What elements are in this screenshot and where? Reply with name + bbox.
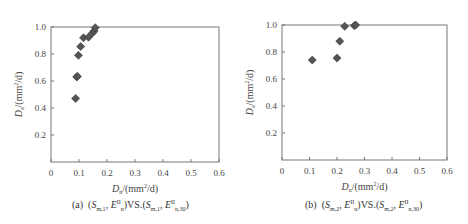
y-axis-label: Da/(mm2/d) [244, 70, 256, 117]
diamond-marker [72, 95, 80, 103]
diamond-marker [77, 43, 85, 51]
axes: 00.10.20.30.40.50.60.20.40.60.81.0Dn/(mm… [244, 20, 453, 193]
y-tick-label: 0.8 [266, 47, 278, 57]
x-tick-label: 0.2 [331, 166, 342, 176]
diamond-marker [333, 54, 341, 62]
panel-b: 00.10.20.30.40.50.60.20.40.60.81.0Dn/(mm… [234, 0, 468, 224]
x-tick-label: 0.1 [304, 166, 315, 176]
x-tick-label: 0.3 [359, 166, 371, 176]
scatter-plot-a: 00.10.20.30.40.50.60.20.40.60.81.0Dn/(mm… [0, 0, 234, 200]
scatter-plot-b: 00.10.20.30.40.50.60.20.40.60.81.0Dn/(mm… [234, 0, 468, 200]
x-tick-label: 0.5 [185, 168, 197, 178]
x-tick-label: 0.4 [157, 168, 169, 178]
y-tick-label: 0.6 [266, 74, 278, 84]
y-tick-label: 0.2 [266, 128, 277, 138]
diamond-marker [308, 56, 316, 64]
caption-a: (a) (Sm,1, EIIn)VS.(Sm,1, EIIn,30) [72, 199, 189, 212]
y-tick-label: 0.2 [35, 130, 46, 140]
y-tick-label: 0.6 [35, 76, 47, 86]
x-tick-label: 0.1 [73, 168, 84, 178]
axes: 00.10.20.30.40.50.60.20.40.60.81.0Dn/(mm… [13, 22, 225, 195]
data-points [308, 21, 359, 64]
data-points [72, 24, 100, 103]
x-tick-label: 0 [49, 168, 54, 178]
y-axis-label: Da/(mm2/d) [13, 72, 25, 119]
x-tick-label: 0 [280, 166, 285, 176]
x-axis-label: Dn/(mm2/d) [340, 181, 387, 193]
x-tick-label: 0.6 [213, 168, 225, 178]
diamond-marker [336, 37, 344, 45]
y-tick-label: 0.4 [266, 101, 278, 111]
diamond-marker [74, 51, 82, 59]
x-tick-label: 0.5 [414, 166, 426, 176]
caption-b: (b) (Sm,2, EIIn)VS.(Sm,2, EIIn,30) [305, 199, 422, 212]
y-tick-label: 1.0 [35, 22, 47, 32]
y-tick-label: 0.8 [35, 49, 47, 59]
x-tick-label: 0.4 [386, 166, 398, 176]
x-tick-label: 0.3 [129, 168, 141, 178]
y-tick-label: 0.4 [35, 103, 47, 113]
x-tick-label: 0.6 [441, 166, 453, 176]
x-axis-label: Dn/(mm2/d) [111, 183, 158, 195]
panel-a: 00.10.20.30.40.50.60.20.40.60.81.0Dn/(mm… [0, 0, 234, 224]
diamond-marker [341, 22, 349, 30]
y-tick-label: 1.0 [266, 20, 278, 30]
x-tick-label: 0.2 [101, 168, 112, 178]
